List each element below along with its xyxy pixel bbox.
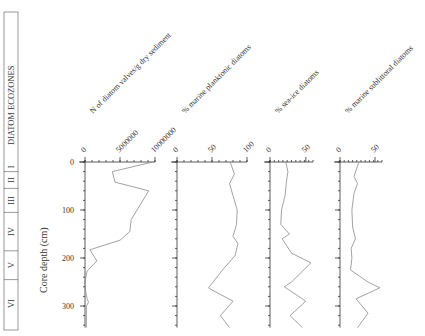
ecozone-frame: [4, 12, 18, 330]
x-tick-label: 50: [300, 142, 312, 154]
y-tick-labels: 0100200300: [62, 158, 74, 311]
x-tick-label: 50: [206, 142, 218, 154]
ecozone-label: IV: [6, 226, 16, 236]
ecozone-zones: IIIIIIIVVVI: [4, 165, 18, 308]
ecozone-label: V: [6, 261, 16, 268]
y-axis-title: Core depth (cm): [38, 227, 50, 293]
series-line: [281, 162, 311, 328]
panel-1: 0500000010000000N of diatom valves/g dry…: [79, 30, 178, 327]
y-tick-label: 200: [62, 254, 74, 263]
x-tick-label: 0: [334, 145, 343, 154]
series-line: [351, 162, 380, 328]
x-tick-label: 0: [171, 145, 180, 154]
panels: 0500000010000000N of diatom valves/g dry…: [79, 30, 415, 327]
series-title: % marine sublittoral diatoms: [343, 44, 415, 116]
series-title: % sea-ice diatoms: [273, 68, 321, 116]
panel-4: 050% marine sublittoral diatoms: [334, 44, 415, 328]
panel-2: 050100% marine planktonic diatoms: [171, 43, 256, 328]
series-title: N of diatom valves/g dry sediment: [88, 30, 173, 115]
x-tick-label: 0: [264, 145, 273, 154]
panel-3: 050% sea-ice diatoms: [264, 68, 321, 328]
series-title: % marine planktonic diatoms: [180, 43, 253, 116]
series-line: [209, 162, 238, 328]
series-line: [85, 162, 153, 328]
ecozone-title: DIATOM ECOZONES: [6, 65, 16, 145]
stratigraphic-diagram: DIATOM ECOZONES IIIIIIIVVVI Core depth (…: [0, 0, 425, 336]
x-tick-label: 100: [241, 140, 256, 155]
x-tick-label: 0: [79, 145, 88, 154]
ecozone-label: III: [6, 196, 16, 205]
ecozone-column: DIATOM ECOZONES IIIIIIIVVVI: [4, 12, 18, 330]
ecozone-label: VI: [6, 299, 16, 308]
x-tick-label: 50: [369, 142, 381, 154]
y-tick-label: 300: [62, 302, 74, 311]
y-tick-label: 100: [62, 206, 74, 215]
ecozone-label: II: [6, 177, 16, 183]
y-tick-label: 0: [70, 158, 74, 167]
x-tick-label: 5000000: [114, 128, 140, 154]
ecozone-label: I: [6, 165, 16, 168]
